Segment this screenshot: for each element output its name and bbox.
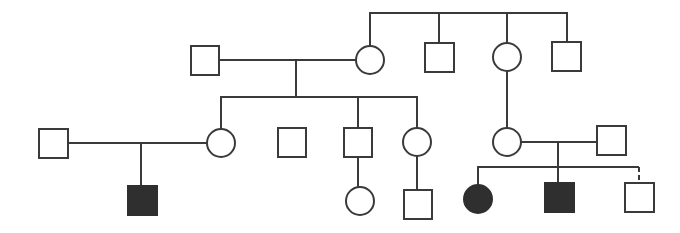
- individual-II-1-male: [39, 129, 68, 158]
- individual-II-4-male: [344, 128, 372, 157]
- individual-III-4-affected-female: [464, 185, 492, 213]
- individual-I-5-male: [552, 42, 581, 71]
- individual-I-2-female: [356, 46, 384, 74]
- individual-III-6-male: [625, 183, 654, 212]
- individual-III-3-male: [404, 190, 432, 219]
- sibship-line-gen2: [221, 97, 417, 129]
- individual-II-6-female: [493, 128, 521, 156]
- individual-II-7-male: [597, 126, 626, 155]
- pedigree-canvas: [0, 0, 680, 233]
- sibship-line-gen1: [370, 13, 567, 46]
- individual-II-2-female: [207, 129, 235, 157]
- individual-II-3-male: [278, 128, 306, 157]
- individual-III-1-affected-male: [128, 186, 157, 215]
- individual-II-5-female: [403, 128, 431, 156]
- individual-III-2-female: [346, 187, 374, 215]
- individual-I-4-female: [493, 43, 521, 71]
- individual-III-5-affected-male: [545, 183, 574, 212]
- individual-I-3-male: [425, 43, 454, 72]
- pedigree-diagram: [0, 0, 680, 233]
- individual-I-1-male: [191, 46, 219, 75]
